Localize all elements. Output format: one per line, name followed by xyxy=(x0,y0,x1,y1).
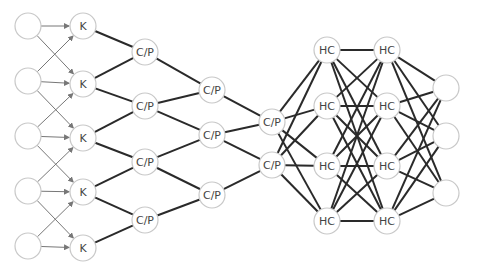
network-diagram: KKKKKC/PC/PC/PC/PC/PC/PC/PC/PC/PHCHCHCHC… xyxy=(0,0,477,276)
edge-g0-o0 xyxy=(398,57,435,81)
node-label: HC xyxy=(379,215,395,228)
node-label: C/P xyxy=(203,129,221,142)
arrow-edge-i4-k4 xyxy=(41,246,69,247)
edge-k2-a1 xyxy=(95,112,134,132)
node-cp1-0: C/P xyxy=(132,39,158,65)
node-circle xyxy=(433,123,459,149)
node-label: K xyxy=(79,186,87,199)
node-circle xyxy=(15,233,41,259)
edge-a0-b0 xyxy=(156,58,200,83)
node-hc1-2: HC xyxy=(314,153,340,179)
edge-k3-a2 xyxy=(95,168,134,187)
node-cp3-0: C/P xyxy=(259,109,285,135)
edge-a1-b1 xyxy=(157,111,200,130)
node-label: HC xyxy=(319,44,335,57)
node-cp1-1: C/P xyxy=(132,93,158,119)
edge-c0-h0 xyxy=(280,60,319,111)
node-input-1 xyxy=(15,68,41,94)
node-label: C/P xyxy=(136,100,154,113)
edge-k3-a3 xyxy=(95,197,133,214)
edge-a2-b2 xyxy=(157,168,201,190)
node-circle xyxy=(15,178,41,204)
node-hc1-0: HC xyxy=(314,37,340,63)
node-cp3-1: C/P xyxy=(259,152,285,178)
node-circle xyxy=(15,13,41,39)
arrow-edge-i3-k3 xyxy=(41,191,69,192)
node-input-0 xyxy=(15,13,41,39)
node-circle xyxy=(15,123,41,149)
edge-c1-h2 xyxy=(285,165,314,166)
node-kernel-4: K xyxy=(70,235,96,261)
edge-b2-c1 xyxy=(224,171,261,189)
node-input-4 xyxy=(15,233,41,259)
node-input-2 xyxy=(15,123,41,149)
node-label: C/P xyxy=(136,156,154,169)
edge-k1-a1 xyxy=(95,88,132,101)
node-label: HC xyxy=(319,160,335,173)
arrow-edge-i1-k1 xyxy=(41,82,69,84)
layer-cp3: C/PC/P xyxy=(259,109,285,178)
node-hc2-0: HC xyxy=(374,37,400,63)
edge-b1-c1 xyxy=(224,141,261,159)
edge-a2-b1 xyxy=(157,140,200,157)
node-label: HC xyxy=(319,100,335,113)
node-circle xyxy=(433,180,459,206)
node-cp1-2: C/P xyxy=(132,149,158,175)
layer-output xyxy=(433,75,459,206)
node-output-2 xyxy=(433,180,459,206)
edge-a3-b2 xyxy=(157,200,200,216)
edge-b1-c0 xyxy=(225,125,260,132)
node-kernel-1: K xyxy=(70,71,96,97)
node-label: C/P xyxy=(263,116,281,129)
node-label: C/P xyxy=(136,214,154,227)
edge-k4-a3 xyxy=(95,225,133,242)
node-hc2-1: HC xyxy=(374,93,400,119)
node-hc2-3: HC xyxy=(374,208,400,234)
node-label: C/P xyxy=(203,84,221,97)
node-label: K xyxy=(79,242,87,255)
node-kernel-3: K xyxy=(70,179,96,205)
network-nodes: KKKKKC/PC/PC/PC/PC/PC/PC/PC/PC/PHCHCHCHC… xyxy=(15,13,459,261)
node-hc1-3: HC xyxy=(314,208,340,234)
node-circle xyxy=(433,75,459,101)
node-label: C/P xyxy=(203,189,221,202)
layer-kernel: KKKKK xyxy=(70,13,96,261)
edge-k1-a0 xyxy=(95,58,134,78)
edge-g3-o2 xyxy=(399,199,435,216)
node-cp1-3: C/P xyxy=(132,207,158,233)
node-label: HC xyxy=(379,44,395,57)
edge-c0-h1 xyxy=(284,110,314,119)
node-hc1-1: HC xyxy=(314,93,340,119)
node-cp2-0: C/P xyxy=(199,77,225,103)
node-input-3 xyxy=(15,178,41,204)
edge-a1-b0 xyxy=(158,93,200,103)
input-to-kernel-edges xyxy=(37,26,73,247)
edge-k0-a0 xyxy=(95,31,133,47)
node-cp2-2: C/P xyxy=(199,182,225,208)
edge-k2-a2 xyxy=(95,143,133,158)
node-label: HC xyxy=(379,100,395,113)
layer-cp1: C/PC/PC/PC/P xyxy=(132,39,158,233)
node-output-1 xyxy=(433,123,459,149)
node-hc2-2: HC xyxy=(374,153,400,179)
node-label: C/P xyxy=(136,46,154,59)
node-kernel-2: K xyxy=(70,125,96,151)
node-label: K xyxy=(79,78,87,91)
layer-input xyxy=(15,13,41,259)
node-label: HC xyxy=(319,215,335,228)
node-label: K xyxy=(79,132,87,145)
node-output-0 xyxy=(433,75,459,101)
node-kernel-0: K xyxy=(70,13,96,39)
layer-cp2: C/PC/PC/P xyxy=(199,77,225,208)
node-circle xyxy=(15,68,41,94)
arrow-edge-i2-k2 xyxy=(41,136,69,137)
edge-b0-c0 xyxy=(223,96,260,116)
node-label: HC xyxy=(379,160,395,173)
node-label: C/P xyxy=(263,159,281,172)
node-cp2-1: C/P xyxy=(199,122,225,148)
node-label: K xyxy=(79,20,87,33)
